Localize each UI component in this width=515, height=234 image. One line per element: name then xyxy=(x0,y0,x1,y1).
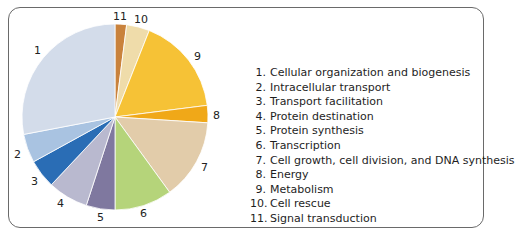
legend-number: 4. xyxy=(250,110,266,125)
legend-label: Protein destination xyxy=(270,110,374,123)
legend-item: 1.Cellular organization and biogenesis xyxy=(250,66,515,81)
legend-label: Metabolism xyxy=(270,183,334,196)
legend-label: Transport facilitation xyxy=(270,95,383,108)
pie-slices xyxy=(22,24,208,210)
legend-item: 5.Protein synthesis xyxy=(250,124,515,139)
slice-label-6: 6 xyxy=(140,207,147,220)
legend-number: 5. xyxy=(250,124,266,139)
legend-number: 6. xyxy=(250,139,266,154)
pie-slice-1 xyxy=(22,24,115,134)
legend-label: Cell growth, cell division, and DNA synt… xyxy=(270,154,515,167)
legend-label: Cellular organization and biogenesis xyxy=(270,66,470,79)
slice-label-5: 5 xyxy=(97,211,104,224)
slice-label-3: 3 xyxy=(31,175,38,188)
legend-number: 3. xyxy=(250,95,266,110)
legend-label: Cell rescue xyxy=(270,197,331,210)
slice-label-7: 7 xyxy=(201,161,208,174)
slice-label-1: 1 xyxy=(34,44,41,57)
legend-item: 11.Signal transduction xyxy=(250,212,515,227)
legend-item: 2.Intracellular transport xyxy=(250,81,515,96)
legend-item: 7.Cell growth, cell division, and DNA sy… xyxy=(250,154,515,169)
slice-label-8: 8 xyxy=(213,109,220,122)
legend-item: 4.Protein destination xyxy=(250,110,515,125)
legend-label: Transcription xyxy=(270,139,341,152)
legend-item: 8.Energy xyxy=(250,168,515,183)
legend-item: 9.Metabolism xyxy=(250,183,515,198)
legend-number: 7. xyxy=(250,154,266,169)
legend-number: 8. xyxy=(250,168,266,183)
slice-label-10: 10 xyxy=(134,13,148,26)
legend-item: 6.Transcription xyxy=(250,139,515,154)
legend-item: 3.Transport facilitation xyxy=(250,95,515,110)
legend-number: 9. xyxy=(250,183,266,198)
legend-label: Intracellular transport xyxy=(270,81,390,94)
legend-number: 2. xyxy=(250,81,266,96)
legend: 1.Cellular organization and biogenesis 2… xyxy=(250,66,515,227)
legend-number: 1. xyxy=(250,66,266,81)
legend-number: 10. xyxy=(250,197,266,212)
legend-label: Energy xyxy=(270,168,309,181)
legend-number: 11. xyxy=(250,212,266,227)
legend-item: 10.Cell rescue xyxy=(250,197,515,212)
slice-label-2: 2 xyxy=(14,148,21,161)
slice-label-11: 11 xyxy=(113,10,127,23)
slice-label-9: 9 xyxy=(194,50,201,63)
slice-label-4: 4 xyxy=(57,197,64,210)
legend-label: Protein synthesis xyxy=(270,124,364,137)
legend-label: Signal transduction xyxy=(270,212,377,225)
